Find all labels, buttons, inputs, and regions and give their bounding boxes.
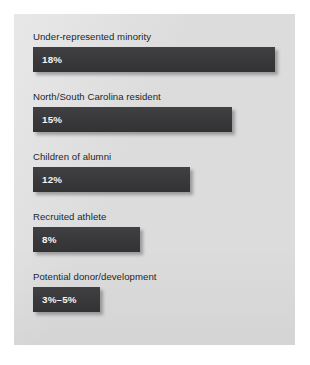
bar-category-label: Recruited athlete <box>33 211 289 227</box>
chart-figure: Under-represented minority 18% North/Sou… <box>0 0 310 365</box>
bar-row: Recruited athlete 8% <box>33 211 289 271</box>
bar-category-label: Children of alumni <box>33 151 289 167</box>
bar-value-label: 18% <box>42 54 62 65</box>
bar: 3%–5% <box>33 287 100 312</box>
bar-row: Children of alumni 12% <box>33 151 289 211</box>
chart-panel: Under-represented minority 18% North/Sou… <box>14 14 295 345</box>
bar-row: North/South Carolina resident 15% <box>33 91 289 151</box>
bar: 8% <box>33 227 140 252</box>
bar-track: 15% <box>33 107 289 132</box>
bar-value-label: 15% <box>42 114 62 125</box>
bar-value-label: 12% <box>42 174 62 185</box>
bar-track: 12% <box>33 167 289 192</box>
bar-track: 8% <box>33 227 289 252</box>
bar: 12% <box>33 167 190 192</box>
bar-category-label: Potential donor/development <box>33 271 289 287</box>
bar-row: Under-represented minority 18% <box>33 31 289 91</box>
bar: 18% <box>33 47 275 72</box>
bar-row: Potential donor/development 3%–5% <box>33 271 289 331</box>
bar: 15% <box>33 107 232 132</box>
bar-chart-plot-area: Under-represented minority 18% North/Sou… <box>33 31 289 339</box>
bar-value-label: 8% <box>42 234 57 245</box>
bar-track: 18% <box>33 47 289 72</box>
bar-category-label: North/South Carolina resident <box>33 91 289 107</box>
bar-track: 3%–5% <box>33 287 289 312</box>
bar-value-label: 3%–5% <box>42 294 77 305</box>
bar-category-label: Under-represented minority <box>33 31 289 47</box>
